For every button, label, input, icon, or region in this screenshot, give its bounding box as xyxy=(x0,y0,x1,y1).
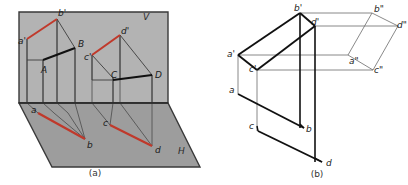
panel-b-labels: b' b" d' d" a' a" c' c" a b c d xyxy=(227,3,407,168)
label-c-prime: c' xyxy=(249,64,256,74)
label-c-point: c xyxy=(103,118,108,128)
label-a-double-prime: a" xyxy=(349,56,359,66)
label-d-double-prime: d" xyxy=(397,20,407,30)
label-b-prime: b' xyxy=(58,8,66,18)
label-a-point: a xyxy=(31,105,37,115)
panel-a: V H a' b' B A c' d' C D a b c d (a) xyxy=(18,8,200,178)
label-c-point: c xyxy=(249,121,254,131)
horizontal-plane-surface xyxy=(19,103,200,167)
label-b-prime: b' xyxy=(294,3,302,13)
label-plane-H: H xyxy=(178,146,185,156)
label-A-point: A xyxy=(40,65,47,75)
label-D-point: D xyxy=(155,70,162,80)
label-d-point: d xyxy=(155,145,161,155)
label-C-point: C xyxy=(111,70,118,80)
panel-b-front-view xyxy=(238,13,315,70)
label-b-point: b xyxy=(87,140,93,150)
label-b-point: b xyxy=(306,124,312,134)
label-a-point: a xyxy=(229,85,235,95)
label-B-point: B xyxy=(78,39,84,49)
label-c-prime: c' xyxy=(84,52,91,62)
caption-a: (a) xyxy=(89,168,102,178)
caption-b: (b) xyxy=(311,169,324,179)
label-a-prime: a' xyxy=(227,49,235,59)
label-c-double-prime: c" xyxy=(374,65,383,75)
label-a-prime: a' xyxy=(18,36,26,46)
figure-canvas: V H a' b' B A c' d' C D a b c d (a) xyxy=(0,0,408,185)
vertical-plane-surface xyxy=(19,12,168,103)
label-b-double-prime: b" xyxy=(374,4,384,14)
label-plane-V: V xyxy=(143,12,150,22)
label-d-prime: d' xyxy=(311,17,319,27)
label-d-prime: d' xyxy=(121,26,129,36)
label-d-point: d xyxy=(326,158,332,168)
panel-b: b' b" d' d" a' a" c' c" a b c d (b) xyxy=(227,3,407,179)
projection-figure: V H a' b' B A c' d' C D a b c d (a) xyxy=(0,0,408,185)
